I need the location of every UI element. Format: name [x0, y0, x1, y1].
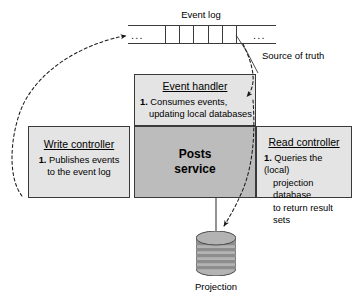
event-log-title: Event log [152, 9, 250, 20]
event-log [152, 25, 250, 44]
event-handler-title: Event handler [135, 80, 255, 93]
source-of-truth-label: Source of truth [262, 50, 324, 61]
write-controller-item-number: 1. [39, 155, 47, 165]
projection-database-cylinder [196, 231, 236, 276]
posts-service-line1: Posts [179, 147, 212, 161]
event-log-ellipsis-right: ... [253, 30, 266, 41]
read-controller-line3: to return result sets [264, 202, 349, 227]
posts-service-line2: service [174, 162, 215, 176]
event-log-cell [223, 26, 237, 43]
event-handler-line1: Consumes events, [150, 97, 227, 107]
read-controller-line2: projection database [264, 177, 349, 202]
event-log-cell [166, 26, 180, 43]
event-log-cell [237, 26, 250, 43]
event-log-cell [152, 26, 166, 43]
event-log-cells [152, 25, 250, 44]
diagram-canvas: Event log ... ... Source of truth Write … [0, 0, 362, 303]
write-controller-box: Write controller 1. Publishes events to … [28, 126, 130, 198]
event-handler-line2: updating local databases [140, 108, 253, 121]
read-controller-line1: Queries the (local) [264, 153, 322, 176]
posts-service-box: Posts service [134, 126, 256, 198]
projection-label: Projection [180, 281, 252, 292]
read-controller-title: Read controller [257, 136, 351, 149]
read-controller-box: Read controller 1. Queries the (local) p… [256, 126, 352, 198]
event-log-cell [180, 26, 194, 43]
event-log-cell [209, 26, 223, 43]
write-controller-line2: to the event log [47, 167, 111, 177]
event-log-ellipsis-left: ... [131, 30, 144, 41]
write-controller-body: 1. Publishes events to the event log [29, 154, 129, 179]
event-handler-box: Event handler 1. Consumes events, updati… [134, 74, 256, 126]
posts-service-label: Posts service [174, 147, 215, 177]
event-handler-body: 1. Consumes events, updating local datab… [135, 96, 255, 121]
write-controller-line1: Publishes events [49, 155, 119, 165]
event-handler-item-number: 1. [140, 97, 148, 107]
read-controller-item-number: 1. [264, 153, 272, 163]
event-log-cell [194, 26, 208, 43]
cylinder-top [196, 231, 236, 245]
read-controller-body: 1. Queries the (local) projection databa… [257, 152, 351, 227]
write-controller-title: Write controller [29, 138, 129, 151]
